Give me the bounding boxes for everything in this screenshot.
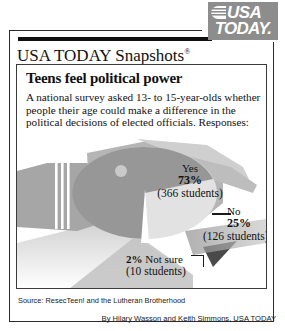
callout-not-sure-percent: 2% xyxy=(126,253,143,265)
wrist-stripe-3 xyxy=(67,163,70,229)
headline: Teens feel political power xyxy=(26,70,182,87)
snapshots-title: USA TODAY Snapshots® xyxy=(17,42,190,66)
logo-usa-text: USA xyxy=(227,4,261,21)
callout-not-sure-count: (10 students) xyxy=(126,265,228,277)
byline: By Hilary Wasson and Keith Simmons, USA … xyxy=(0,314,276,323)
knuckle-stripe-1 xyxy=(108,129,114,145)
callout-no-percent: 25% xyxy=(227,216,251,230)
knuckle-stripe-3 xyxy=(120,129,126,145)
registered-mark: ® xyxy=(184,47,190,56)
usa-today-logo: USA TODAY. xyxy=(208,2,278,40)
subtitle-line-1: A national survey asked 13- to 15-year-o… xyxy=(26,91,262,104)
content-box: Teens feel political power A national su… xyxy=(16,64,267,289)
wrist-stripe-2 xyxy=(61,163,64,229)
snapshot-infographic: USA TODAY Snapshots® USA TODAY. Teens fe… xyxy=(0,0,285,331)
wrist-stripe-1 xyxy=(55,163,58,229)
callout-no-count: (126 students) xyxy=(203,230,267,242)
snapshots-title-text: USA TODAY Snapshots xyxy=(17,46,184,65)
pie-highlight-dot xyxy=(115,165,127,177)
globe-stripes-icon xyxy=(211,6,226,19)
callout-not-sure: 2% Not sure (10 students) xyxy=(126,253,228,278)
header-rule xyxy=(18,37,212,41)
callout-no: No 25% (126 students) xyxy=(203,205,267,242)
subtitle-line-2: people their age could make a difference… xyxy=(26,104,262,117)
callout-yes-count: (366 students) xyxy=(135,187,245,199)
source-line: Source: ResecTeen! and the Lutheran Brot… xyxy=(18,296,185,305)
logo-today-text: TODAY. xyxy=(208,19,278,39)
knuckle-stripe-2 xyxy=(114,129,120,145)
callout-yes-percent: 73% xyxy=(135,174,245,186)
callout-yes: Yes 73% (366 students) xyxy=(135,162,245,199)
callout-not-sure-label: Not sure xyxy=(145,253,183,265)
